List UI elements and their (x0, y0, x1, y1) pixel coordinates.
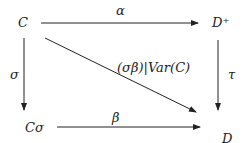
node-D-plus: D⁺ (212, 16, 229, 29)
label-sigma: σ (10, 68, 19, 81)
node-C: C (18, 16, 28, 29)
node-D: D (222, 132, 232, 143)
arrow-diagonal (45, 38, 196, 112)
label-tau: τ (228, 68, 235, 81)
label-beta: β (112, 111, 120, 124)
label-alpha: α (116, 4, 125, 17)
label-diagonal: (σβ)|Var(C) (117, 61, 190, 74)
node-C-sigma: Cσ (25, 121, 44, 134)
